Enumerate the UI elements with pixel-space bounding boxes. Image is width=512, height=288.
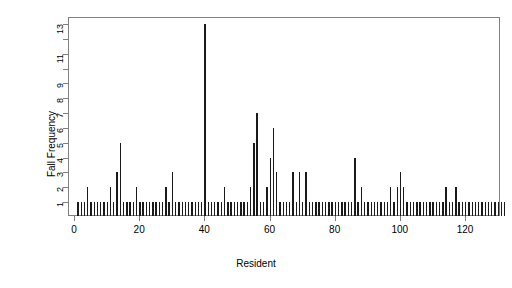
bar: [393, 202, 394, 216]
bar: [142, 202, 143, 216]
bar: [224, 187, 225, 216]
bar: [361, 187, 362, 216]
bar: [168, 202, 169, 216]
bar: [217, 202, 218, 216]
bar: [292, 172, 293, 216]
bar: [204, 24, 205, 216]
bar: [198, 202, 199, 216]
bar: [84, 202, 85, 216]
bar: [100, 202, 101, 216]
bar: [211, 202, 212, 216]
bar: [410, 202, 411, 216]
bar: [439, 202, 440, 216]
bar: [348, 202, 349, 216]
x-axis-tick-label: 100: [391, 224, 408, 235]
bar: [178, 202, 179, 216]
bar: [81, 202, 82, 216]
bar: [250, 187, 251, 216]
bar: [468, 202, 469, 216]
bar: [485, 202, 486, 216]
x-axis-tick-label: 40: [199, 224, 210, 235]
x-axis-tick: [465, 216, 466, 221]
bar: [172, 172, 173, 216]
bar: [289, 202, 290, 216]
bar: [273, 128, 274, 216]
bar: [208, 202, 209, 216]
bar: [237, 202, 238, 216]
bar: [403, 187, 404, 216]
bar: [188, 202, 189, 216]
bar: [367, 202, 368, 216]
bar: [87, 187, 88, 216]
x-axis-tick: [74, 216, 75, 221]
bar: [159, 202, 160, 216]
bar: [146, 202, 147, 216]
bar: [426, 202, 427, 216]
bar: [299, 172, 300, 216]
bar: [436, 202, 437, 216]
bar: [165, 187, 166, 216]
bar: [279, 202, 280, 216]
bar: [253, 143, 254, 216]
bar: [110, 187, 111, 216]
bar: [504, 202, 505, 216]
bar: [494, 202, 495, 216]
bar: [234, 202, 235, 216]
bar: [344, 202, 345, 216]
bar: [481, 202, 482, 216]
bar: [266, 187, 267, 216]
bar: [429, 202, 430, 216]
bar: [357, 202, 358, 216]
bar: [413, 202, 414, 216]
bar: [152, 202, 153, 216]
bar: [103, 202, 104, 216]
bar: [338, 202, 339, 216]
bar: [263, 202, 264, 216]
x-axis-tick-label: 120: [457, 224, 474, 235]
bar: [276, 172, 277, 216]
bar: [305, 172, 306, 216]
bar: [256, 113, 257, 216]
bar: [221, 202, 222, 216]
bar: [260, 202, 261, 216]
bar: [97, 202, 98, 216]
bar: [501, 202, 502, 216]
bar: [116, 172, 117, 216]
bar: [445, 187, 446, 216]
x-axis-tick-label: 20: [134, 224, 145, 235]
bar: [214, 202, 215, 216]
bar: [155, 202, 156, 216]
bar: [475, 202, 476, 216]
bar: [406, 202, 407, 216]
bar: [488, 202, 489, 216]
bar: [318, 202, 319, 216]
bar: [478, 202, 479, 216]
chart-screenshot: 1234567891113 Fall Frequency Resident 02…: [0, 0, 512, 288]
bar: [270, 158, 271, 217]
bar: [283, 202, 284, 216]
bar: [354, 158, 355, 217]
bar: [139, 202, 140, 216]
bar: [465, 202, 466, 216]
bar: [377, 202, 378, 216]
bar: [390, 187, 391, 216]
bar: [247, 202, 248, 216]
bar: [423, 202, 424, 216]
x-axis-title: Resident: [0, 258, 512, 269]
bar: [296, 202, 297, 216]
bar: [416, 202, 417, 216]
bar: [384, 202, 385, 216]
bar: [335, 202, 336, 216]
x-axis-tick-label: 80: [329, 224, 340, 235]
x-axis-tick: [139, 216, 140, 221]
bar: [286, 202, 287, 216]
bar: [328, 202, 329, 216]
bar: [195, 202, 196, 216]
bar: [442, 202, 443, 216]
bar: [325, 202, 326, 216]
bar: [472, 202, 473, 216]
bar: [94, 202, 95, 216]
x-axis-tick: [335, 216, 336, 221]
bar: [175, 202, 176, 216]
bar: [400, 172, 401, 216]
